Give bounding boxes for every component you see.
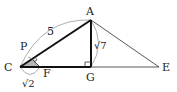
label-c: C bbox=[4, 61, 12, 74]
label-e: E bbox=[162, 61, 170, 74]
label-f: F bbox=[43, 67, 51, 80]
geometry-diagram: A C G E F P 5 √7 √2 bbox=[0, 0, 177, 92]
label-g: G bbox=[86, 71, 95, 84]
arc-cf-measure bbox=[20, 67, 40, 75]
label-p: P bbox=[20, 40, 28, 53]
measure-ca: 5 bbox=[47, 25, 54, 38]
measure-ag: √7 bbox=[94, 40, 107, 51]
label-a: A bbox=[85, 5, 95, 18]
measure-cf: √2 bbox=[22, 78, 35, 89]
